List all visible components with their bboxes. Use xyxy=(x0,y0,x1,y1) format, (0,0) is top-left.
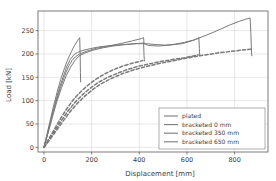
y-tick-label: 250 xyxy=(22,27,34,35)
y-tick-label: 100 xyxy=(22,97,34,105)
x-tick-label: 200 xyxy=(85,156,97,164)
load-displacement-chart: 0200400600800050100150200250 platedbrack… xyxy=(0,0,276,181)
y-tick-label: 200 xyxy=(22,50,34,58)
legend[interactable]: platedbracketed 0 mmbracketed 350 mmbrac… xyxy=(159,108,265,149)
legend-label[interactable]: bracketed 350 mm xyxy=(182,129,239,136)
y-tick-label: 50 xyxy=(26,120,34,128)
y-axis-title: Load [kN] xyxy=(5,68,13,102)
legend-label[interactable]: plated xyxy=(182,112,201,120)
x-tick-label: 600 xyxy=(181,156,193,164)
chart-figure: 0200400600800050100150200250 platedbrack… xyxy=(0,0,276,181)
x-tick-label: 400 xyxy=(133,156,145,164)
legend-label[interactable]: bracketed 0 mm xyxy=(182,121,232,128)
legend-label[interactable]: bracketed 650 mm xyxy=(182,138,239,145)
y-tick-label: 0 xyxy=(30,144,34,152)
x-axis-title: Displacement [mm] xyxy=(125,170,195,178)
series-line xyxy=(44,60,143,147)
x-tick-label: 800 xyxy=(228,156,240,164)
x-tick-label: 0 xyxy=(42,156,46,164)
y-tick-label: 150 xyxy=(22,74,34,82)
